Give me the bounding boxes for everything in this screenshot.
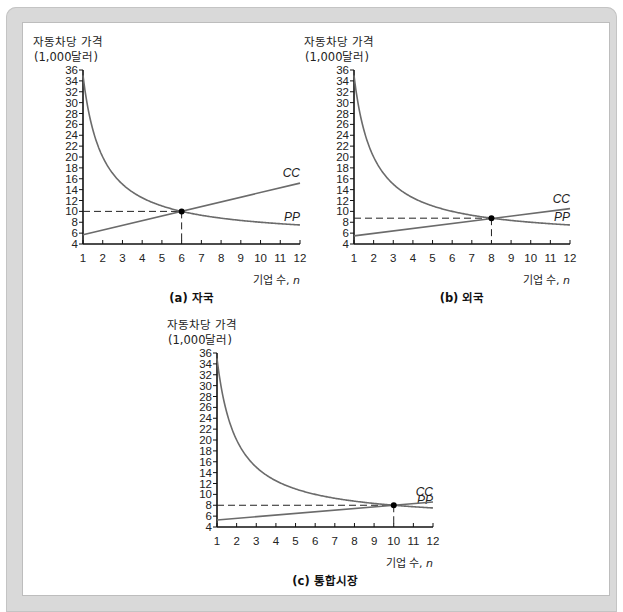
equilibrium-point	[391, 502, 397, 508]
y-tick-label: 14	[336, 184, 349, 196]
y-tick-label: 32	[199, 369, 212, 381]
y-tick-label: 4	[343, 238, 350, 250]
y-tick-label: 32	[336, 86, 349, 98]
equilibrium-point	[179, 208, 185, 214]
x-axis-title-var: n	[293, 274, 300, 287]
chart-foreign: 자동차당 가격(1,000달러)468101214161820222426283…	[304, 35, 576, 305]
y-tick-label: 14	[65, 184, 78, 196]
y-tick-label: 34	[199, 358, 212, 370]
y-tick-label: 6	[343, 227, 349, 239]
x-axis-title: 기업 수, n	[253, 274, 301, 287]
series-cc-label: CC	[553, 192, 571, 206]
series-pp-label: PP	[554, 210, 570, 224]
x-tick-label: 5	[292, 535, 298, 547]
y-tick-label: 24	[199, 412, 212, 424]
x-tick-label: 9	[508, 252, 514, 264]
y-tick-label: 6	[206, 510, 212, 522]
y-tick-label: 8	[206, 499, 212, 511]
y-tick-label: 20	[199, 434, 212, 446]
x-tick-label: 1	[351, 252, 357, 264]
y-tick-label: 30	[65, 97, 78, 109]
y-tick-label: 4	[72, 238, 79, 250]
x-tick-label: 7	[332, 535, 338, 547]
y-tick-label: 28	[336, 108, 349, 120]
y-tick-label: 16	[65, 173, 78, 185]
y-axis-title: 자동차당 가격	[304, 35, 374, 49]
y-tick-label: 36	[65, 64, 78, 76]
x-tick-label: 3	[253, 535, 259, 547]
y-axis-title: 자동차당 가격	[33, 35, 103, 49]
y-tick-label: 18	[336, 162, 349, 174]
x-axis-title-text: 기업 수,	[523, 274, 564, 287]
y-tick-label: 6	[72, 227, 78, 239]
series-pp-curve	[217, 358, 433, 508]
x-tick-label: 11	[274, 252, 286, 264]
y-tick-label: 20	[336, 151, 349, 163]
x-tick-label: 5	[159, 252, 165, 264]
y-tick-label: 12	[65, 195, 78, 207]
x-axis-title-text: 기업 수,	[386, 557, 427, 570]
y-tick-label: 22	[336, 140, 349, 152]
chart-integrated-market: 자동차당 가격(1,000달러)468101214161820222426283…	[167, 318, 439, 588]
x-tick-label: 5	[429, 252, 435, 264]
series-pp-curve	[354, 75, 570, 225]
y-tick-label: 32	[65, 86, 78, 98]
y-tick-label: 28	[199, 391, 212, 403]
series-pp-curve	[83, 75, 300, 225]
y-tick-label: 22	[65, 140, 78, 152]
y-tick-label: 16	[336, 173, 349, 185]
chart-caption: (a) 자국	[169, 291, 213, 305]
x-tick-label: 4	[273, 535, 280, 547]
x-tick-label: 9	[238, 252, 244, 264]
y-tick-label: 36	[199, 347, 212, 359]
chart-caption: (c) 통합시장	[292, 574, 357, 588]
x-tick-label: 7	[198, 252, 204, 264]
x-tick-label: 11	[407, 535, 419, 547]
x-axis-title: 기업 수, n	[386, 557, 434, 570]
x-axis-title-text: 기업 수,	[253, 274, 294, 287]
x-tick-label: 2	[100, 252, 106, 264]
y-axis-unit: (1,000달러)	[305, 50, 369, 64]
y-tick-label: 30	[199, 380, 212, 392]
x-tick-label: 3	[390, 252, 396, 264]
y-tick-label: 34	[65, 75, 78, 87]
x-tick-label: 12	[564, 252, 577, 264]
x-axis-title-var: n	[426, 557, 433, 570]
y-tick-label: 26	[336, 118, 349, 130]
x-tick-label: 6	[449, 252, 455, 264]
y-axis-unit: (1,000달러)	[34, 50, 98, 64]
chart-caption: (b) 외국	[440, 291, 485, 305]
chart-home: 자동차당 가격(1,000달러)468101214161820222426283…	[33, 35, 306, 305]
series-cc-label: CC	[283, 166, 301, 180]
x-tick-label: 4	[139, 252, 146, 264]
y-tick-label: 30	[336, 97, 349, 109]
y-axis-unit: (1,000달러)	[168, 333, 232, 347]
y-tick-label: 10	[199, 488, 212, 500]
y-tick-label: 26	[65, 118, 78, 130]
x-axis-title: 기업 수, n	[523, 274, 571, 287]
y-tick-label: 24	[336, 129, 349, 141]
x-tick-label: 3	[119, 252, 125, 264]
series-cc-curve	[217, 502, 433, 520]
x-tick-label: 2	[233, 535, 239, 547]
x-axis-title-var: n	[563, 274, 570, 287]
x-tick-label: 8	[351, 535, 357, 547]
y-tick-label: 26	[199, 401, 212, 413]
x-tick-label: 4	[410, 252, 417, 264]
x-tick-label: 1	[214, 535, 220, 547]
y-tick-label: 16	[199, 456, 212, 468]
x-tick-label: 9	[371, 535, 377, 547]
y-tick-label: 14	[199, 467, 212, 479]
x-tick-label: 10	[524, 252, 537, 264]
x-tick-label: 12	[294, 252, 307, 264]
series-cc-curve	[83, 183, 300, 235]
equilibrium-point	[488, 215, 494, 221]
y-tick-label: 34	[336, 75, 349, 87]
x-tick-label: 11	[544, 252, 556, 264]
x-tick-label: 6	[312, 535, 318, 547]
y-tick-label: 28	[65, 108, 78, 120]
x-tick-label: 1	[80, 252, 86, 264]
x-tick-label: 8	[488, 252, 494, 264]
y-tick-label: 10	[65, 205, 78, 217]
x-tick-label: 6	[178, 252, 184, 264]
